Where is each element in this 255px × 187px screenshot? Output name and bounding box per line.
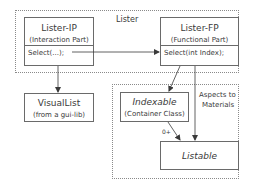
indexable-title: Indexable xyxy=(121,97,188,107)
indexable-subtitle: (Container Class) xyxy=(121,110,188,118)
lister-ip-class[interactable]: Lister-IP (Interaction Part) Select(...)… xyxy=(24,17,94,66)
lister-fp-subtitle: (Functional Part) xyxy=(161,36,238,44)
lister-fp-title: Lister-FP xyxy=(161,23,238,33)
lister-fp-class[interactable]: Lister-FP (Functional Part) Select(int I… xyxy=(160,17,239,66)
lister-ip-subtitle: (Interaction Part) xyxy=(25,36,93,44)
aspects-group-label-line2: Materials xyxy=(202,101,234,109)
visual-list-subtitle: (from a gui-lib) xyxy=(25,111,93,119)
multiplicity-label: 0+ xyxy=(162,128,171,136)
lister-fp-divider xyxy=(161,45,238,46)
listable-title: Listable xyxy=(161,151,238,161)
aspects-group-label-line1: Aspects to xyxy=(199,91,236,99)
lister-ip-method: Select(...); xyxy=(28,49,64,57)
indexable-class[interactable]: Indexable (Container Class) xyxy=(120,92,189,122)
lister-fp-method: Select(int Index); xyxy=(164,49,224,57)
visual-list-title: VisualList xyxy=(25,98,93,108)
visual-list-class[interactable]: VisualList (from a gui-lib) xyxy=(24,93,94,122)
lister-ip-title: Lister-IP xyxy=(25,23,93,33)
lister-ip-divider xyxy=(25,45,93,46)
listable-class[interactable]: Listable xyxy=(160,141,239,170)
lister-group-label: Lister xyxy=(116,16,138,24)
